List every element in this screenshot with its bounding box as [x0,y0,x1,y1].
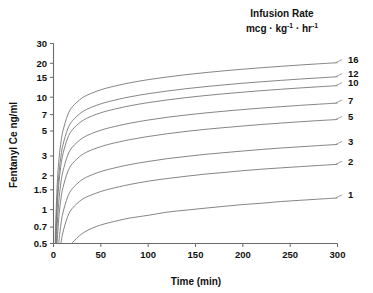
series-label-1: 1 [348,189,354,200]
y-tick-label-5: 5 [42,125,48,136]
series-label-10: 10 [348,77,359,88]
y-tick-label-30: 30 [36,38,47,49]
y-tick-label-20: 20 [36,58,47,69]
series-curve-12 [56,77,338,244]
x-tick-label-50: 50 [96,249,107,260]
chart-figure: Infusion Rate mcg · kg-1 · hr-1 0.50.711… [0,0,373,293]
series-curve-16 [55,63,337,244]
fentanyl-ce-line-chart: Infusion Rate mcg · kg-1 · hr-1 0.50.711… [0,0,373,293]
series-curve-5 [57,120,337,244]
y-tick-label-10: 10 [36,92,47,103]
x-tick-label-100: 100 [140,249,156,260]
y-axis-title: Fentanyl Ce ng/ml [8,102,19,188]
series-leader-line-10 [336,83,343,86]
series-leader-line-5 [336,117,343,120]
series-leader-line-16 [336,60,343,63]
series-label-7: 7 [348,95,353,106]
series-label-2: 2 [348,156,353,167]
y-tick-label-1.5: 1.5 [34,184,48,195]
series-label-3: 3 [348,136,353,147]
legend-title-line2: mcg · kg-1 · hr-1 [246,22,318,34]
y-tick-label-2: 2 [42,170,47,181]
x-axis-title: Time (min) [171,276,221,287]
x-tick-group: 050100150200250300 [51,244,346,260]
x-axis: 050100150200250300 [51,244,346,260]
y-tick-label-3: 3 [42,150,47,161]
x-tick-label-150: 150 [188,249,204,260]
y-axis: 0.50.711.5235710152030 [34,38,54,249]
y-tick-label-1: 1 [42,204,48,215]
legend-units-mid: · hr [293,23,312,34]
series-curve-1 [72,198,338,244]
series-curve-2 [61,164,338,243]
x-tick-label-0: 0 [51,249,56,260]
series-curve-10 [56,86,338,244]
y-tick-label-15: 15 [36,72,47,83]
y-tick-group: 0.50.711.5235710152030 [34,38,54,249]
y-tick-label-0.5: 0.5 [34,238,48,249]
x-tick-label-300: 300 [330,249,346,260]
y-tick-label-0.7: 0.7 [34,221,47,232]
series-label-5: 5 [348,111,354,122]
x-tick-label-250: 250 [282,249,298,260]
series-leader-line-1 [336,195,343,198]
series-curve-3 [59,144,338,243]
series-label-16: 16 [348,54,359,65]
series-curves [55,63,337,244]
legend-title-line1: Infusion Rate [250,8,314,19]
series-leader-line-3 [336,141,343,144]
series-leader-line-12 [336,74,343,77]
y-tick-label-7: 7 [42,109,47,120]
legend-units-sup2: -1 [312,22,318,29]
x-tick-label-200: 200 [235,249,251,260]
series-curve-7 [57,103,338,243]
series-label-group: 16121075321 [336,54,359,200]
series-leader-line-2 [336,161,343,164]
series-leader-line-7 [336,100,343,103]
legend-units-prefix: mcg · kg [246,23,287,34]
